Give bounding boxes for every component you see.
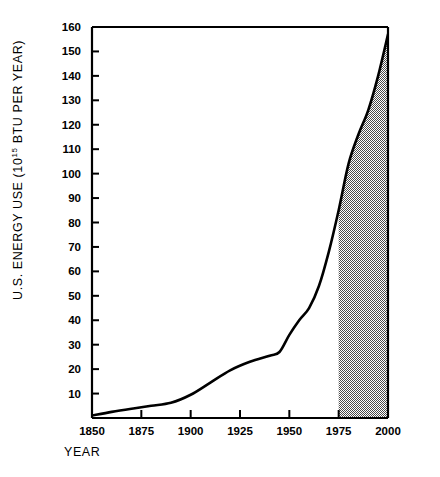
y-tick-label: 40 [68,314,81,326]
y-axis-title-exponent: 15 [10,147,19,157]
x-axis-tick-labels: 1850187519001925195019752000 [79,425,401,437]
x-tick-label: 1975 [326,425,352,437]
svg-text:U.S. ENERGY USE (1015 BTU PER: U.S. ENERGY USE (1015 BTU PER YEAR) [10,40,25,300]
x-tick-label: 2000 [375,425,401,437]
y-axis-tick-labels: 102030405060708090100110120130140150160 [62,21,81,400]
y-tick-label: 60 [68,265,81,277]
y-axis-title-prefix: U.S. ENERGY USE (10 [11,158,25,300]
y-tick-label: 130 [62,94,81,106]
y-tick-label: 70 [68,241,81,253]
y-axis-title: U.S. ENERGY USE (1015 BTU PER YEAR) [10,40,25,300]
y-tick-label: 100 [62,168,81,180]
y-tick-label: 160 [62,21,81,33]
y-tick-label: 50 [68,290,81,302]
chart-container: 102030405060708090100110120130140150160 … [0,0,440,477]
x-tick-label: 1950 [277,425,303,437]
y-tick-label: 80 [68,217,81,229]
x-tick-label: 1875 [129,425,155,437]
y-tick-label: 110 [62,143,81,155]
x-tick-label: 1900 [178,425,204,437]
energy-use-chart: 102030405060708090100110120130140150160 … [0,0,440,477]
y-tick-label: 150 [62,45,81,57]
y-tick-label: 10 [68,388,81,400]
y-tick-label: 30 [68,339,81,351]
y-axis-title-suffix: BTU PER YEAR) [11,40,25,148]
x-tick-label: 1850 [79,425,105,437]
y-tick-label: 140 [62,70,81,82]
y-tick-label: 120 [62,119,81,131]
y-tick-label: 90 [68,192,81,204]
x-tick-label: 1925 [227,425,253,437]
y-tick-label: 20 [68,363,81,375]
x-axis-title: YEAR [64,445,100,459]
